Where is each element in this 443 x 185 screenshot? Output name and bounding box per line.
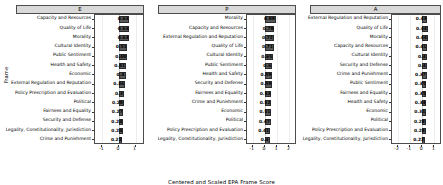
y-axis-labels-p: MoralityCapacity and ResourcesExternal R…	[158, 14, 246, 144]
bar-value-label: 0.41	[416, 45, 427, 49]
x-axis-tick-label: 2	[287, 147, 290, 152]
y-axis-tick-label: Public Sentiment	[53, 53, 91, 58]
y-axis-tick-label: Policy Prescription and Evaluation	[312, 128, 388, 133]
bar-value-label: 0.35	[415, 82, 426, 86]
y-axis-title: Frame	[3, 55, 9, 95]
y-axis-tick-label: Health and Safety	[348, 100, 389, 105]
bar-value-label: 0.34	[415, 101, 426, 105]
y-axis-tick-label: Political	[74, 100, 91, 105]
y-axis-tick-label: Policy Prescription and Evaluation	[15, 91, 91, 96]
facet-strip-label-e: E	[17, 7, 143, 12]
bar-value-label: 0.24	[111, 129, 122, 133]
gridline	[410, 15, 411, 143]
bar-value-label: 0.35	[415, 92, 426, 96]
bar-value-label: 0.59	[261, 73, 272, 77]
y-axis-tick-label: Capacity and Resources	[189, 26, 243, 31]
bar-value-label: 0.27	[112, 110, 123, 114]
y-axis-tick-label: Fairness and Equality	[340, 91, 388, 96]
bar-value-label: 0.65	[261, 55, 272, 59]
y-axis-tick-label: Security and Defense	[195, 81, 243, 86]
facet-strip-a: A	[310, 5, 441, 14]
y-axis-labels-e: Capacity and ResourcesQuality of LifeMor…	[16, 14, 94, 144]
x-axis-tick-label: 1	[275, 147, 278, 152]
bar-value-label: 0.3	[115, 92, 123, 96]
bar-value-label: 0.44	[416, 27, 427, 31]
gridline	[434, 15, 435, 143]
gridline	[253, 15, 254, 143]
y-axis-tick-label: Crime and Punishment	[337, 72, 388, 77]
bar-value-label: 0.63	[118, 27, 129, 31]
x-axis-tick-label: -2	[394, 147, 399, 152]
bar-value-label: 0.4	[418, 64, 426, 68]
y-axis-tick-label: External Regulation and Reputation	[163, 35, 243, 40]
x-axis-tick-label: 0	[420, 147, 423, 152]
y-axis-tick-label: Security and Defense	[43, 118, 91, 123]
y-axis-tick-label: Morality	[225, 16, 243, 21]
y-axis-tick-label: Economic	[221, 109, 243, 114]
facet-panel-e: E Capacity and ResourcesQuality of LifeM…	[16, 5, 144, 153]
bar-value-label: 0.71	[262, 45, 273, 49]
x-axis-a: -2-101	[391, 145, 441, 157]
bar-value-label: 0.28	[414, 129, 425, 133]
bar-value-label: 0.22	[413, 138, 424, 142]
y-axis-tick-label: Fairness and Equality	[195, 91, 243, 96]
y-axis-tick-label: Political	[371, 118, 388, 123]
y-axis-tick-label: Health and Safety	[203, 72, 244, 77]
x-axis-tick-label: -1	[249, 147, 254, 152]
gridline	[277, 15, 278, 143]
facet-panel-a: A External Regulation and ReputationQual…	[310, 5, 441, 153]
y-axis-tick-label: Legality, Constitutionality, Jurisdictio…	[303, 137, 388, 142]
bar-value-label: 0.43	[416, 17, 427, 21]
x-axis-tick-label: 1	[432, 147, 435, 152]
bar-value-label: 0.48	[115, 55, 126, 59]
bar-value-label: 0.52	[260, 101, 271, 105]
bar-value-label: 0.47	[259, 120, 270, 124]
gridline	[398, 15, 399, 143]
bar-value-label: 0.41	[114, 64, 125, 68]
facet-strip-label-a: A	[311, 7, 440, 12]
bar-value-label: 0.24	[111, 120, 122, 124]
epa-frame-score-figure: Frame E Capacity and ResourcesQuality of…	[0, 0, 443, 185]
y-axis-tick-label: Fairness and Equality	[43, 109, 91, 114]
gridline	[289, 15, 290, 143]
y-axis-tick-label: Cultural Identity	[352, 53, 388, 58]
bar-value-label: 0.37	[415, 73, 426, 77]
y-axis-tick-label: Crime and Punishment	[40, 137, 91, 142]
bar-value-label: 0.72	[262, 36, 273, 40]
bar-value-label: 0.44	[416, 36, 427, 40]
x-axis-tick-label: 1	[133, 147, 136, 152]
bar-value-label: 0.63	[118, 17, 129, 21]
bar-value-label: 0.53	[260, 92, 271, 96]
facet-strip-label-p: P	[159, 7, 295, 12]
facet-strip-p: P	[158, 5, 296, 14]
y-axis-tick-label: External Regulation and Reputation	[11, 81, 91, 86]
gridline	[102, 15, 103, 143]
y-axis-tick-label: Economic	[69, 72, 91, 77]
y-axis-tick-label: External Regulation and Reputation	[308, 16, 388, 21]
x-axis-tick-label: -1	[407, 147, 412, 152]
bar-value-label: 0.6	[263, 64, 271, 68]
bar-value-label: 0.4	[418, 55, 426, 59]
y-axis-tick-label: Cultural Identity	[207, 53, 243, 58]
x-axis-tick-label: 0	[262, 147, 265, 152]
y-axis-tick-label: Security and Defense	[340, 63, 388, 68]
y-axis-tick-label: Policy Prescription and Evaluation	[167, 128, 243, 133]
x-axis-title: Centered and Scaled EPA Frame Score	[0, 179, 443, 185]
y-axis-tick-label: Morality	[370, 35, 388, 40]
y-axis-tick-label: Public Sentiment	[205, 63, 243, 68]
bar-value-label: 0.4	[117, 73, 125, 77]
y-axis-tick-label: Legality, Constitutionality, Jurisdictio…	[158, 137, 243, 142]
y-axis-tick-label: Political	[226, 118, 243, 123]
facet-panel-p: P MoralityCapacity and ResourcesExternal…	[158, 5, 296, 153]
bar-value-label: 0.63	[118, 36, 129, 40]
bar-value-label: 0.36	[113, 82, 124, 86]
bar-value-label: 0.4	[261, 138, 269, 142]
bar-value-label: 0.51	[116, 45, 127, 49]
y-axis-tick-label: Cultural Identity	[55, 44, 91, 49]
y-axis-tick-label: Economic	[366, 109, 388, 114]
bar-value-label: 0.51	[260, 110, 271, 114]
plot-area-e: 0.630.630.630.510.480.410.40.360.30.280.…	[94, 14, 144, 144]
bar-value-label: 0.88	[264, 17, 275, 21]
bar-value-label: 0.59	[261, 82, 272, 86]
facet-strip-e: E	[16, 5, 144, 14]
